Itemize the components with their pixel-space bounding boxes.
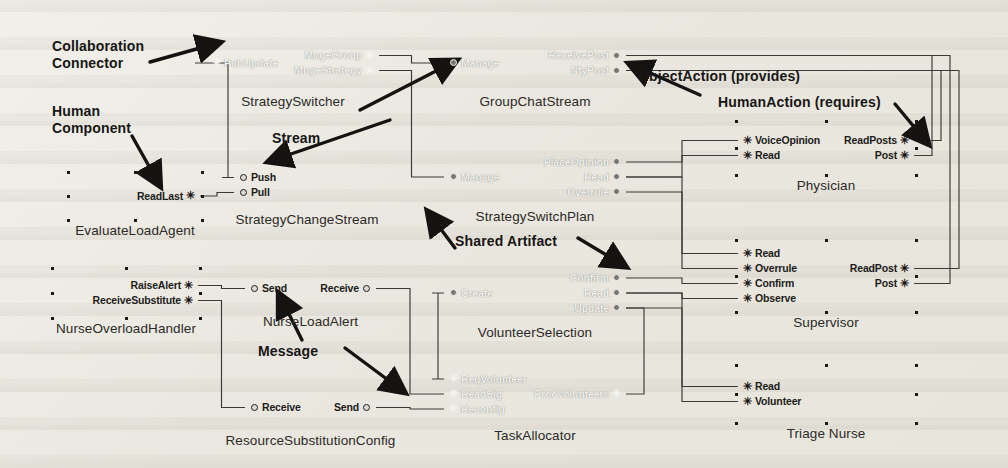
- node-caption-volunteer-selection: VolunteerSelection: [478, 325, 592, 340]
- port-resource-substitution-config-send[interactable]: Send: [334, 402, 371, 413]
- node-nurse-load-alert[interactable]: SendReceiveNurseLoadAlert: [243, 266, 378, 311]
- port-group-chat-stream-manage[interactable]: Manage: [449, 58, 499, 69]
- port-strategy-change-stream-push[interactable]: Push: [239, 172, 276, 183]
- ball-port-icon: [612, 303, 621, 312]
- connector-strategy-switch-plan-Read--physician-Read: [626, 156, 738, 178]
- node-resource-substitution-config[interactable]: ReceiveSendResourceSubstitutionConfig: [243, 385, 378, 430]
- node-nurse-overload-handler[interactable]: RaiseAlert✳ReceiveSubstitute✳NurseOverlo…: [52, 268, 200, 318]
- port-triage-nurse-volunteer[interactable]: ✳Volunteer: [743, 396, 801, 407]
- annotation-pointer-arrow-0: [150, 48, 200, 62]
- node-body-strategy-switcher: ✳PubUpdateMngeGroup✳MngeStrategy✳: [205, 35, 381, 91]
- node-strategy-change-stream[interactable]: PushPullStrategyChangeStream: [232, 161, 382, 209]
- node-volunteer-selection[interactable]: CreateConfirmReadUpdateVolunteerSelectio…: [442, 264, 628, 322]
- port-label: Manage: [461, 172, 499, 183]
- node-strategy-switch-plan[interactable]: ManagePlaceOpinionReadOverruleStrategySw…: [442, 148, 628, 206]
- port-strategy-switcher-mngegroup[interactable]: MngeGroup✳: [304, 50, 374, 61]
- port-physician-readposts[interactable]: ReadPosts✳: [844, 135, 909, 146]
- connector-nurse-overload-handler-RaiseAlert--nurse-load-alert-Send: [198, 286, 245, 289]
- selection-handle: [915, 147, 918, 150]
- selection-handle: [915, 275, 918, 278]
- human-action-icon: ✳: [743, 151, 752, 160]
- port-task-allocator-procvolunteers[interactable]: ProcVolunteers✳: [534, 389, 621, 400]
- node-body-group-chat-stream: ManageReceivePostNfyPost: [442, 35, 628, 91]
- node-caption-triage-nurse: Triage Nurse: [787, 426, 866, 441]
- connector-volunteer-selection-Update--triage-nurse-Volunteer: [626, 308, 738, 402]
- port-label: Read: [584, 288, 609, 299]
- selection-handle: [825, 364, 828, 367]
- node-triage-nurse[interactable]: ✳Read✳VolunteerTriage Nurse: [736, 365, 916, 423]
- selection-handle: [825, 311, 828, 314]
- selection-handle: [735, 239, 738, 242]
- port-label: Manage: [461, 58, 499, 69]
- port-strategy-switch-plan-placeopinion[interactable]: PlaceOpinion: [544, 157, 621, 168]
- node-supervisor[interactable]: ✳Read✳Overrule✳Confirm✳ObserveReadPost✳P…: [736, 240, 916, 312]
- port-label: RaiseAlert: [131, 280, 181, 291]
- node-caption-group-chat-stream: GroupChatStream: [479, 94, 590, 109]
- port-triage-nurse-read[interactable]: ✳Read: [743, 381, 780, 392]
- port-supervisor-post[interactable]: Post✳: [875, 278, 909, 289]
- port-nurse-overload-handler-receivesubstitute[interactable]: ReceiveSubstitute✳: [93, 295, 193, 306]
- port-nurse-load-alert-send[interactable]: Send: [250, 283, 287, 294]
- port-task-allocator-reqvolunteer[interactable]: ✳ReqVolunteer: [449, 374, 527, 385]
- port-group-chat-stream-nfypost[interactable]: NfyPost: [570, 65, 621, 76]
- port-label: Read: [755, 248, 780, 259]
- port-label: PubUpdate: [224, 58, 278, 69]
- node-body-supervisor: ✳Read✳Overrule✳Confirm✳ObserveReadPost✳P…: [736, 240, 916, 312]
- port-supervisor-overrule[interactable]: ✳Overrule: [743, 263, 797, 274]
- port-volunteer-selection-read[interactable]: Read: [584, 288, 621, 299]
- port-volunteer-selection-update[interactable]: Update: [574, 303, 621, 314]
- port-strategy-switcher-mngestrategy[interactable]: MngeStrategy✳: [294, 65, 374, 76]
- port-strategy-switch-plan-manage[interactable]: Manage: [449, 172, 499, 183]
- port-task-allocator-reconfig[interactable]: ✳Reconfig: [449, 404, 505, 415]
- human-action-icon: ✳: [612, 389, 621, 398]
- node-physician[interactable]: ✳VoiceOpinion✳ReadReadPosts✳Post✳Physici…: [736, 121, 916, 175]
- port-resource-substitution-config-receive[interactable]: Receive: [250, 402, 301, 413]
- port-supervisor-readpost[interactable]: ReadPost✳: [850, 263, 909, 274]
- selection-handle: [125, 267, 128, 270]
- human-action-icon: ✳: [449, 389, 458, 398]
- port-label: Receive: [262, 402, 301, 413]
- port-strategy-switcher-pubupdate[interactable]: ✳PubUpdate: [212, 58, 278, 69]
- annotation-pointer-arrow-1: [132, 136, 150, 168]
- node-evaluate-load-agent[interactable]: ReadLast✳EvaluateLoadAgent: [68, 172, 202, 220]
- port-label: NfyPost: [570, 65, 609, 76]
- port-group-chat-stream-receivepost[interactable]: ReceivePost: [548, 50, 621, 61]
- human-action-icon: ✳: [186, 191, 195, 200]
- port-supervisor-read[interactable]: ✳Read: [743, 248, 780, 259]
- ball-port-icon: [362, 403, 371, 412]
- port-evaluate-load-agent-readlast[interactable]: ReadLast✳: [137, 191, 195, 202]
- port-volunteer-selection-confirm[interactable]: Confirm: [570, 273, 621, 284]
- selection-handle: [199, 317, 202, 320]
- port-strategy-switch-plan-read[interactable]: Read: [584, 172, 621, 183]
- port-nurse-overload-handler-raisealert[interactable]: RaiseAlert✳: [131, 280, 193, 291]
- human-action-icon: ✳: [449, 374, 458, 383]
- node-group-chat-stream[interactable]: ManageReceivePostNfyPostGroupChatStream: [442, 35, 628, 91]
- selection-handle: [735, 147, 738, 150]
- port-nurse-load-alert-receive[interactable]: Receive: [320, 283, 371, 294]
- port-physician-read[interactable]: ✳Read: [743, 150, 780, 161]
- node-strategy-switcher[interactable]: ✳PubUpdateMngeGroup✳MngeStrategy✳Strateg…: [205, 35, 381, 91]
- port-label: ReadPost: [850, 263, 897, 274]
- annotation-shared-artifact: Shared Artifact: [455, 233, 557, 250]
- port-supervisor-confirm[interactable]: ✳Confirm: [743, 278, 794, 289]
- port-label: Update: [574, 303, 609, 314]
- port-volunteer-selection-create[interactable]: Create: [449, 288, 493, 299]
- selection-handle: [199, 292, 202, 295]
- port-strategy-switch-plan-overrule[interactable]: Overrule: [567, 187, 621, 198]
- node-caption-supervisor: Supervisor: [793, 315, 859, 330]
- annotation-human-component: Human Component: [52, 103, 131, 136]
- node-task-allocator[interactable]: ✳ReqVolunteer✳ReadSig✳ReconfigProcVolunt…: [442, 363, 628, 425]
- annotation-stream: Stream: [272, 130, 320, 147]
- port-task-allocator-readsig[interactable]: ✳ReadSig: [449, 389, 502, 400]
- port-label: Send: [262, 283, 287, 294]
- port-physician-post[interactable]: Post✳: [875, 150, 909, 161]
- port-strategy-change-stream-pull[interactable]: Pull: [239, 187, 270, 198]
- selection-handle: [735, 174, 738, 177]
- port-physician-voiceopinion[interactable]: ✳VoiceOpinion: [743, 135, 820, 146]
- selection-handle: [915, 393, 918, 396]
- selection-handle: [735, 364, 738, 367]
- port-label: Read: [584, 172, 609, 183]
- port-label: Send: [334, 402, 359, 413]
- selection-handle: [735, 275, 738, 278]
- port-supervisor-observe[interactable]: ✳Observe: [743, 293, 796, 304]
